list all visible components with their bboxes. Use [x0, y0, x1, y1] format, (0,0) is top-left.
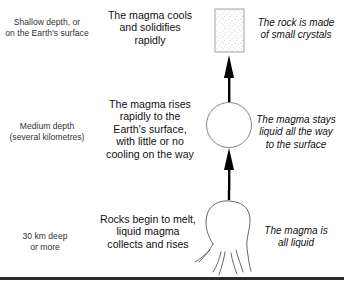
arrow-up-icon — [224, 55, 234, 102]
result-text-shallow: The rock is made of small crystals — [246, 17, 344, 42]
depth-label-medium: Medium depth (several kilometres) — [2, 121, 92, 143]
process-text-deep: Rocks begin to melt, liquid magma collec… — [84, 213, 212, 250]
depth-label-shallow: Shallow depth, or on the Earth's surface — [2, 17, 92, 39]
result-text-medium: The magma stays liquid all the way to th… — [248, 114, 344, 151]
result-text-deep: The magma is all liquid — [256, 225, 336, 250]
process-text-shallow: The magma cools and solidifies rapidly — [92, 9, 208, 46]
arrow-stub-icon — [228, 190, 230, 200]
rock-crystals-icon — [215, 9, 244, 52]
bottom-divider — [0, 277, 344, 280]
depth-label-deep: 30 km deep or more — [10, 231, 80, 253]
process-text-medium: The magma rises rapidly to the Earth's s… — [88, 98, 212, 160]
arrow-up-icon — [224, 148, 234, 190]
magma-circle-icon — [207, 103, 252, 148]
